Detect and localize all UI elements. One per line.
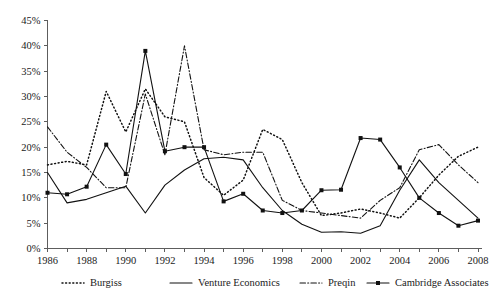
series-marker-cambridge-associates — [456, 224, 460, 228]
series-marker-cambridge-associates — [222, 199, 226, 203]
series-marker-cambridge-associates — [319, 188, 323, 192]
y-tick-label: 5% — [27, 218, 41, 229]
legend-label-burgiss: Burgiss — [90, 277, 122, 288]
y-tick-label: 35% — [21, 66, 41, 77]
legend-marker-cambridge-associates — [376, 281, 380, 285]
series-marker-cambridge-associates — [46, 191, 50, 195]
y-tick-label: 40% — [21, 40, 41, 51]
x-tick-label: 2002 — [350, 255, 371, 266]
series-marker-cambridge-associates — [163, 149, 167, 153]
x-tick-label: 1988 — [76, 255, 97, 266]
series-marker-cambridge-associates — [241, 192, 245, 196]
series-marker-cambridge-associates — [202, 145, 206, 149]
x-tick-label: 1986 — [37, 255, 58, 266]
series-marker-cambridge-associates — [124, 172, 128, 176]
line-chart: 0%5%10%15%20%25%30%35%40%45% 19861988199… — [0, 0, 496, 300]
series-marker-cambridge-associates — [182, 145, 186, 149]
y-tick-label: 25% — [21, 116, 41, 127]
chart-container: 0%5%10%15%20%25%30%35%40%45% 19861988199… — [0, 0, 496, 300]
series-marker-cambridge-associates — [359, 136, 363, 140]
series-marker-cambridge-associates — [476, 219, 480, 223]
x-tick-label: 1994 — [194, 255, 216, 266]
y-tick-label: 45% — [21, 15, 41, 26]
x-tick-label: 2004 — [389, 255, 411, 266]
series-marker-cambridge-associates — [437, 211, 441, 215]
x-tick-label: 2000 — [311, 255, 332, 266]
series-marker-cambridge-associates — [417, 196, 421, 200]
series-marker-cambridge-associates — [280, 211, 284, 215]
x-tick-label: 1996 — [233, 255, 254, 266]
y-tick-label: 30% — [21, 91, 41, 102]
series-marker-cambridge-associates — [300, 209, 304, 213]
series-marker-cambridge-associates — [65, 192, 69, 196]
y-tick-label: 15% — [21, 167, 41, 178]
legend-label-venture-economics: Venture Economics — [198, 277, 280, 288]
x-tick-label: 1992 — [154, 255, 175, 266]
x-tick-label: 2006 — [428, 255, 449, 266]
y-tick-label: 0% — [27, 243, 41, 254]
y-tick-label: 20% — [21, 142, 41, 153]
x-tick-label: 1990 — [115, 255, 136, 266]
legend-label-preqin: Preqin — [328, 277, 356, 288]
series-marker-cambridge-associates — [143, 49, 147, 53]
series-marker-cambridge-associates — [398, 165, 402, 169]
legend-label-cambridge-associates: Cambridge Associates — [395, 277, 489, 288]
x-tick-label: 2008 — [468, 255, 489, 266]
series-marker-cambridge-associates — [85, 185, 89, 189]
series-marker-cambridge-associates — [378, 138, 382, 142]
x-tick-label: 1998 — [272, 255, 293, 266]
series-marker-cambridge-associates — [339, 188, 343, 192]
y-tick-label: 10% — [21, 192, 41, 203]
series-marker-cambridge-associates — [261, 209, 265, 213]
series-marker-cambridge-associates — [104, 143, 108, 147]
